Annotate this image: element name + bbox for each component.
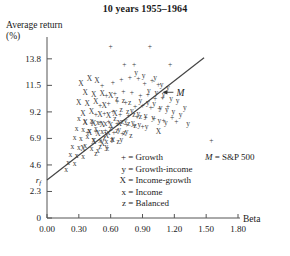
legend-item-balanced: z = Balanced bbox=[117, 198, 193, 210]
data-point-X: X bbox=[82, 88, 88, 97]
market-label: M bbox=[175, 88, 185, 98]
x-tick-label: 0.30 bbox=[71, 224, 87, 234]
data-point-y: y bbox=[134, 68, 138, 77]
x-axis-ticks: 0.000.300.600.901.201.501.80 bbox=[39, 214, 246, 234]
y-tick-label: 9.2 bbox=[30, 107, 41, 117]
data-point-+: + bbox=[209, 136, 213, 145]
data-point-y: y bbox=[160, 80, 164, 89]
data-point-x: x bbox=[64, 165, 68, 174]
data-point-y: y bbox=[147, 86, 151, 95]
data-point-x: x bbox=[92, 135, 96, 144]
y-axis-ticks: 02.34.66.99.211.513.8 bbox=[25, 54, 52, 223]
data-point-y: y bbox=[159, 103, 163, 112]
scatter-plot: 02.34.66.99.211.513.8 0.000.300.600.901.… bbox=[0, 0, 290, 256]
y-tick-label: 4.6 bbox=[30, 160, 42, 170]
legend-symbol-income-growth: X bbox=[117, 175, 126, 187]
x-tick-label: 0.00 bbox=[39, 224, 55, 234]
data-point-x: x bbox=[94, 124, 98, 133]
data-point-y: y bbox=[158, 116, 162, 125]
legend-label-income-growth: = Income-growth bbox=[128, 175, 191, 185]
legend-label-balanced: = Balanced bbox=[128, 198, 169, 208]
data-point-+: + bbox=[128, 73, 132, 82]
legend-symbol-growth-income: y bbox=[117, 164, 126, 176]
data-point-y: y bbox=[183, 103, 187, 112]
data-point-x: x bbox=[73, 133, 77, 142]
data-point-X: X bbox=[76, 98, 82, 107]
data-point-X: X bbox=[102, 101, 108, 110]
data-point-y: y bbox=[164, 118, 168, 127]
y-tick-label: 6.9 bbox=[30, 133, 42, 143]
data-point-y: y bbox=[165, 105, 169, 114]
data-point-y: y bbox=[137, 120, 141, 129]
data-point-y: y bbox=[146, 98, 150, 107]
data-point-y: y bbox=[171, 107, 175, 116]
data-point-z: z bbox=[106, 144, 110, 153]
legend-item-growth-income: y = Growth-income bbox=[117, 164, 193, 176]
data-point-y: y bbox=[145, 122, 149, 131]
x-tick-label: 1.80 bbox=[230, 224, 246, 234]
data-point-y: y bbox=[154, 88, 158, 97]
legend-item-market: M = S&P 500 bbox=[205, 152, 255, 162]
data-point-y: y bbox=[153, 73, 157, 82]
data-point-+: + bbox=[130, 88, 134, 97]
legend: + = Growth y = Growth-income X = Income-… bbox=[117, 152, 193, 210]
y-tick-label: 0 bbox=[37, 213, 42, 223]
legend-symbol-balanced: z bbox=[117, 198, 126, 210]
data-point-y: y bbox=[139, 96, 143, 105]
data-point-X: X bbox=[78, 79, 84, 88]
legend-label-growth-income: = Growth-income bbox=[128, 164, 192, 174]
legend-symbol-market: M bbox=[205, 152, 213, 162]
y-tick-label: 11.5 bbox=[26, 80, 42, 90]
x-tick-label: 1.20 bbox=[166, 224, 182, 234]
legend-label-growth: = Growth bbox=[128, 152, 163, 162]
legend-symbol-income: x bbox=[117, 187, 126, 199]
data-point-y: y bbox=[186, 119, 190, 128]
y-tick-label: 13.8 bbox=[25, 54, 41, 64]
data-point-x: x bbox=[81, 152, 85, 161]
risk-free-annotation: rf bbox=[36, 175, 43, 186]
data-point-+: + bbox=[122, 60, 126, 69]
y-tick-label: 2.3 bbox=[30, 186, 42, 196]
data-point-y: y bbox=[151, 113, 155, 122]
data-point-+: + bbox=[111, 78, 115, 87]
legend-symbol-growth: + bbox=[117, 152, 126, 164]
data-point-X: X bbox=[156, 127, 162, 136]
legend-label-market: = S&P 500 bbox=[215, 152, 255, 162]
risk-free-label: rf bbox=[36, 175, 43, 186]
x-tick-label: 0.90 bbox=[135, 224, 151, 234]
x-tick-label: 1.50 bbox=[198, 224, 214, 234]
data-point-+: + bbox=[109, 42, 113, 51]
legend-label-income: = Income bbox=[128, 187, 162, 197]
data-point-z: z bbox=[129, 131, 133, 140]
data-point-x: x bbox=[73, 159, 77, 168]
data-point-x: x bbox=[77, 114, 81, 123]
data-point-+: + bbox=[119, 75, 123, 84]
data-point-X: X bbox=[94, 76, 100, 85]
data-point-z: z bbox=[139, 112, 143, 121]
data-point-X: X bbox=[99, 89, 105, 98]
data-point-y: y bbox=[169, 94, 173, 103]
data-point-x: x bbox=[75, 124, 79, 133]
data-point-+: + bbox=[121, 87, 125, 96]
data-point-x: x bbox=[85, 132, 89, 141]
data-point-y: y bbox=[152, 99, 156, 108]
legend-item-growth: + = Growth bbox=[117, 152, 193, 164]
data-point-+: + bbox=[168, 60, 172, 69]
data-point-X: X bbox=[87, 74, 93, 83]
data-point-X: X bbox=[108, 91, 114, 100]
data-point-x: x bbox=[90, 144, 94, 153]
legend-item-income-growth: X = Income-growth bbox=[117, 175, 193, 187]
data-point-x: x bbox=[103, 119, 107, 128]
legend-item-income: x = Income bbox=[117, 187, 193, 199]
data-point-X: X bbox=[93, 97, 99, 106]
x-tick-label: 0.60 bbox=[103, 224, 119, 234]
data-point-y: y bbox=[142, 71, 146, 80]
chart-container: 10 years 1955–1964 Average return (%) Be… bbox=[0, 0, 290, 256]
data-point-y: y bbox=[144, 111, 148, 120]
data-point-+: + bbox=[148, 42, 152, 51]
data-point-x: x bbox=[83, 141, 87, 150]
